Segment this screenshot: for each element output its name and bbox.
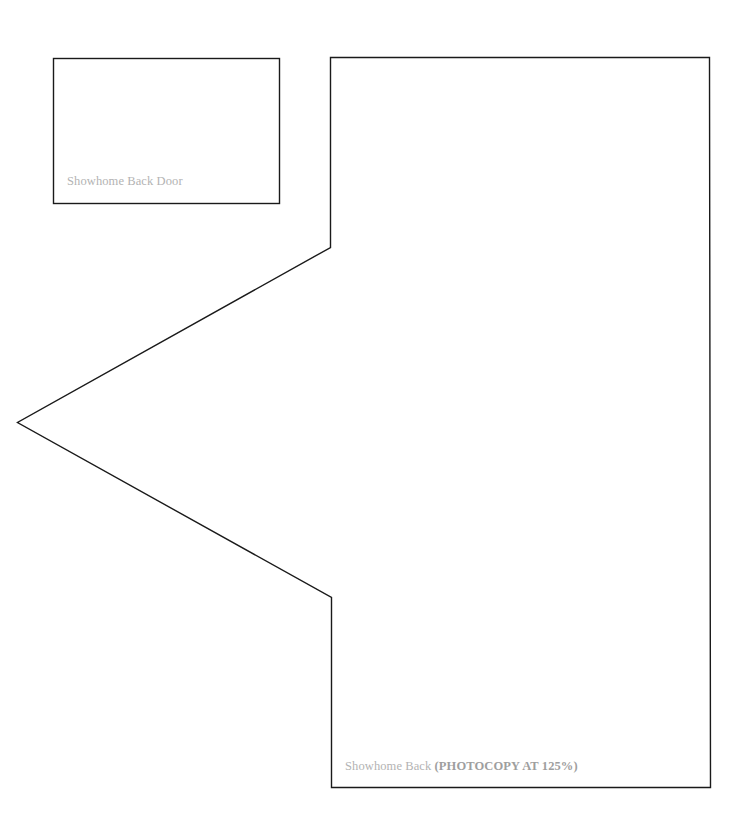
piece-label: Showhome Back [345,759,431,773]
piece-label: Showhome Back Door [67,174,183,188]
photocopy-note: (PHOTOCOPY AT 125%) [435,759,578,773]
showhome-back-door-label: Showhome Back Door [67,174,183,189]
showhome-back-outline [18,58,711,788]
showhome-back-label: Showhome Back (PHOTOCOPY AT 125%) [345,759,578,774]
template-canvas [0,0,749,828]
